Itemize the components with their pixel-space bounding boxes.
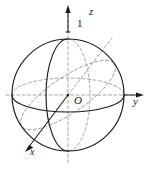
- x-axis-ray: [28, 95, 68, 148]
- origin-point: [67, 94, 70, 97]
- y-axis-label: y: [133, 96, 138, 107]
- sphere-diagram: z 1 y x O: [0, 0, 147, 177]
- diagram-canvas: [0, 0, 147, 177]
- x-axis-label: x: [30, 147, 34, 157]
- z-unit-tick-label: 1: [77, 18, 83, 29]
- z-axis-arrowhead: [65, 5, 70, 13]
- origin-label: O: [74, 95, 82, 106]
- hidden-lines-group: [6, 14, 133, 163]
- z-axis-label: z: [89, 6, 93, 17]
